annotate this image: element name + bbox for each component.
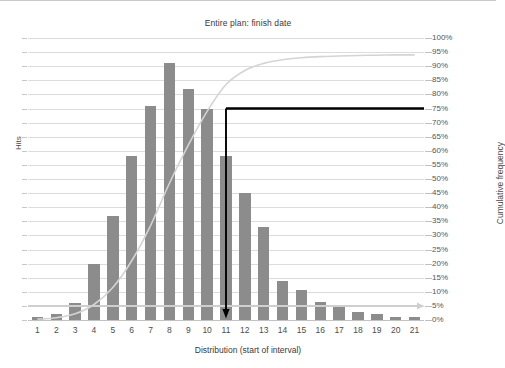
y2-axis-tick: [425, 250, 432, 251]
y2-axis-tick: [425, 221, 432, 222]
y-axis-tick: [22, 165, 27, 166]
x-axis-tick-labels: 123456789101112131415161718192021: [28, 324, 424, 340]
x-axis-tick-label: 8: [160, 325, 179, 335]
y2-axis-tick-label: 75%: [432, 105, 448, 113]
y2-axis-tick: [425, 52, 432, 53]
x-axis-tick-label: 11: [217, 325, 236, 335]
y2-axis-tick: [425, 80, 432, 81]
y2-axis-tick: [425, 235, 432, 236]
y2-axis-tick: [425, 193, 432, 194]
y2-axis-tick: [425, 137, 432, 138]
x-axis-label: Distribution (start of interval): [0, 345, 496, 355]
cumulative-line: [37, 55, 414, 319]
y2-axis-tick-label: 10%: [432, 288, 448, 296]
x-axis-tick-label: 20: [386, 325, 405, 335]
y2-axis-tick-label: 100%: [432, 34, 452, 42]
y2-axis-tick-label: 5%: [432, 302, 444, 310]
y-axis-tick: [22, 207, 27, 208]
y2-axis-tick: [425, 109, 432, 110]
y-axis-tick: [22, 137, 27, 138]
y2-axis-tick-label: 0%: [432, 316, 444, 324]
x-axis-tick-label: 10: [198, 325, 217, 335]
y-axis-tick: [22, 320, 27, 321]
top-divider: [0, 0, 496, 1]
y2-axis-tick: [425, 165, 432, 166]
y-axis-tick: [22, 52, 27, 53]
y2-axis-tick: [425, 151, 432, 152]
plot-area: [28, 38, 424, 320]
y2-axis-tick-label: 70%: [432, 119, 448, 127]
y2-axis-tick: [425, 292, 432, 293]
y2-axis-tick-label: 35%: [432, 217, 448, 225]
y-axis-tick: [22, 292, 27, 293]
y-axis-tick: [22, 278, 27, 279]
y2-axis-tick-label: 30%: [432, 231, 448, 239]
x-axis-tick-label: 14: [273, 325, 292, 335]
x-axis-tick-label: 17: [330, 325, 349, 335]
y2-axis-tick-label: 20%: [432, 260, 448, 268]
y2-axis-tick: [425, 264, 432, 265]
x-axis-tick-label: 9: [179, 325, 198, 335]
cumulative-frequency-curve: [28, 38, 424, 320]
y2-axis-tick-label: 60%: [432, 147, 448, 155]
y2-axis-tick-label: 65%: [432, 133, 448, 141]
y2-axis-tick: [425, 320, 432, 321]
five-percent-guide-arrow: [417, 302, 424, 309]
y2-axis-tick-label: 85%: [432, 76, 448, 84]
y2-axis-tick: [425, 94, 432, 95]
y2-axis-tick-label: 50%: [432, 175, 448, 183]
y-axis-tick: [22, 38, 27, 39]
y-axis-tick: [22, 264, 27, 265]
y-axis-tick: [22, 250, 27, 251]
y2-axis-tick: [425, 66, 432, 67]
y-axis-tick: [22, 193, 27, 194]
x-axis-tick-label: 13: [254, 325, 273, 335]
chart-title: Entire plan: finish date: [0, 18, 496, 28]
x-axis-tick-label: 2: [47, 325, 66, 335]
x-axis-tick-label: 12: [235, 325, 254, 335]
y2-axis-tick-labels: 0%5%10%15%20%25%30%35%40%45%50%55%60%65%…: [432, 0, 462, 368]
x-axis-tick-label: 1: [28, 325, 47, 335]
y-axis-tick: [22, 94, 27, 95]
y-axis-tick: [22, 179, 27, 180]
y2-axis-tick-label: 25%: [432, 246, 448, 254]
y2-axis-tick: [425, 123, 432, 124]
y2-axis-tick: [425, 179, 432, 180]
x-axis-tick-label: 6: [122, 325, 141, 335]
y2-axis-tick-label: 90%: [432, 62, 448, 70]
y-axis-tick: [22, 123, 27, 124]
y2-axis-tick-label: 95%: [432, 48, 448, 56]
y-axis-tick: [22, 306, 27, 307]
x-axis-tick-label: 15: [292, 325, 311, 335]
y2-axis-tick: [425, 278, 432, 279]
y2-axis-tick: [425, 306, 432, 307]
x-axis-tick-label: 16: [311, 325, 330, 335]
x-axis-tick-label: 21: [405, 325, 424, 335]
y2-axis-tick: [425, 38, 432, 39]
y2-axis-tick-label: 55%: [432, 161, 448, 169]
y2-axis-label-cumulative-frequency: Cumulative frequency: [495, 142, 505, 224]
y2-axis-tick: [425, 207, 432, 208]
x-axis-tick-label: 5: [103, 325, 122, 335]
y-axis-tick: [22, 221, 27, 222]
y-axis-tick: [22, 80, 27, 81]
x-axis-tick-label: 18: [349, 325, 368, 335]
y2-axis-tick-label: 45%: [432, 189, 448, 197]
x-axis-line: [28, 320, 424, 321]
y-axis-tick: [22, 151, 27, 152]
y2-axis-tick-label: 40%: [432, 203, 448, 211]
x-axis-tick-label: 19: [367, 325, 386, 335]
x-axis-tick-label: 4: [85, 325, 104, 335]
x-axis-tick-label: 3: [66, 325, 85, 335]
x-axis-tick-label: 7: [141, 325, 160, 335]
y-axis-tick: [22, 66, 27, 67]
y-axis-label-hits: Hits: [14, 136, 23, 150]
y2-axis-tick-label: 15%: [432, 274, 448, 282]
y-axis-tick: [22, 109, 27, 110]
y2-axis-tick-label: 80%: [432, 90, 448, 98]
y-axis-tick: [22, 235, 27, 236]
